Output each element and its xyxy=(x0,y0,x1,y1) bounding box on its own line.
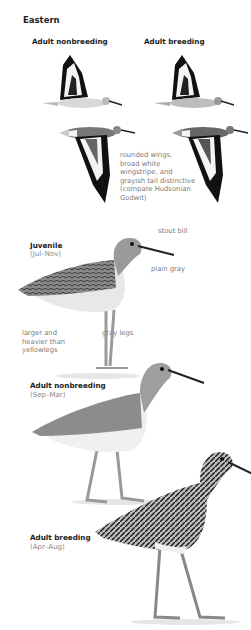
flight-field-mark-note: rounded wings, broad white wingstripe, a… xyxy=(120,151,195,203)
adult-breeding-season: (Apr–Aug) xyxy=(30,543,65,551)
flight-nonbreeding-label: Adult nonbreeding xyxy=(32,37,108,46)
adult-breeding-label: Adult breeding xyxy=(30,533,91,542)
flight-breeding-label: Adult breeding xyxy=(144,37,205,46)
adult-breeding-bird-illustration xyxy=(95,452,251,627)
note-line: broad white xyxy=(120,160,195,169)
note-line: grayish tail distinctive xyxy=(120,177,195,186)
flight-bird-breeding-underside-illustration xyxy=(142,55,227,120)
note-line: wingstripe, and xyxy=(120,168,195,177)
note-line: rounded wings, xyxy=(120,151,195,160)
flight-bird-nonbreeding-underside-illustration xyxy=(30,55,115,120)
juvenile-bird-illustration xyxy=(18,228,178,373)
section-title: Eastern xyxy=(23,15,60,25)
note-line: Godwit) xyxy=(120,194,195,203)
note-line: (compare Hudsonian xyxy=(120,185,195,194)
